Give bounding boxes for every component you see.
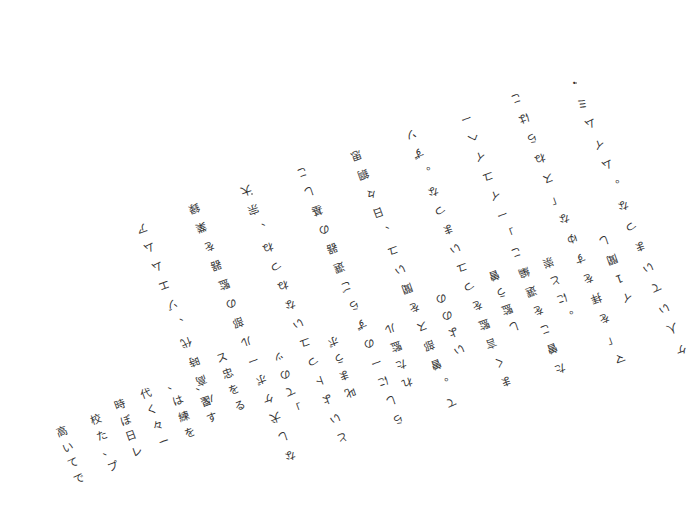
text-glyph: ユ bbox=[480, 168, 495, 183]
text-glyph: 、 bbox=[253, 220, 268, 235]
text-glyph: 々 bbox=[363, 185, 378, 200]
text-glyph: 。 bbox=[418, 164, 433, 179]
text-glyph: 、 bbox=[164, 377, 179, 392]
text-glyph: は bbox=[516, 110, 531, 125]
text-glyph: ル bbox=[382, 320, 397, 335]
text-glyph: い bbox=[447, 240, 462, 255]
text-glyph: を bbox=[596, 310, 611, 325]
text-glyph: 選 bbox=[523, 283, 538, 298]
text-glyph: 、 bbox=[171, 315, 186, 330]
text-glyph: 校 bbox=[88, 412, 103, 427]
text-glyph: て bbox=[65, 455, 80, 470]
text-glyph: ゾ bbox=[164, 296, 179, 311]
text-glyph: 日 bbox=[370, 204, 385, 219]
text-glyph: 監 bbox=[388, 338, 403, 353]
text-glyph: 代 bbox=[179, 334, 194, 349]
text-glyph: 高 bbox=[54, 424, 69, 439]
text-glyph: 「 bbox=[604, 330, 619, 345]
text-glyph: ト bbox=[312, 372, 327, 387]
text-glyph: し bbox=[596, 232, 611, 247]
text-glyph: ま bbox=[336, 367, 351, 382]
text-glyph: の bbox=[316, 221, 331, 236]
text-glyph: ユ bbox=[297, 334, 312, 349]
text-glyph: ル bbox=[238, 333, 253, 348]
text-glyph: し bbox=[383, 392, 398, 407]
text-glyph: は bbox=[170, 393, 185, 408]
text-glyph: こ bbox=[509, 245, 524, 260]
text-glyph: 宗 bbox=[246, 201, 261, 216]
text-glyph: ー bbox=[494, 206, 509, 221]
text-glyph: の bbox=[433, 290, 448, 305]
text-glyph: 1 bbox=[611, 270, 626, 285]
text-glyph: 監 bbox=[499, 301, 514, 316]
text-glyph: い bbox=[60, 440, 75, 455]
text-glyph: ら bbox=[346, 297, 361, 312]
text-glyph: 部 bbox=[231, 314, 246, 329]
text-glyph: 業 bbox=[194, 219, 209, 234]
text-glyph: ユ bbox=[454, 259, 469, 274]
text-glyph: ボ bbox=[253, 371, 268, 386]
scan-speck bbox=[575, 82, 577, 84]
scan-speck bbox=[251, 193, 253, 195]
text-glyph: る bbox=[232, 398, 247, 413]
text-glyph: 。 bbox=[436, 375, 451, 390]
text-glyph: 犬 bbox=[268, 409, 283, 424]
text-glyph: 叱 bbox=[342, 384, 357, 399]
text-glyph: よ bbox=[445, 324, 460, 339]
text-glyph: ア bbox=[134, 220, 149, 235]
text-glyph: い bbox=[451, 341, 466, 356]
text-glyph: す bbox=[572, 250, 587, 265]
text-glyph: し bbox=[506, 318, 521, 333]
text-glyph: 「 bbox=[548, 190, 563, 205]
text-glyph: な bbox=[615, 197, 630, 212]
text-glyph: 聞 bbox=[604, 251, 619, 266]
text-glyph: 」 bbox=[501, 225, 516, 240]
text-glyph: 代 bbox=[138, 386, 153, 401]
text-glyph: て bbox=[443, 394, 458, 409]
text-glyph: ソ bbox=[403, 126, 418, 141]
text-glyph: た bbox=[393, 356, 408, 371]
text-glyph: ユ bbox=[385, 242, 400, 257]
text-glyph: こ bbox=[294, 164, 309, 179]
text-glyph: う bbox=[331, 350, 346, 365]
text-glyph: つ bbox=[624, 218, 639, 233]
text-glyph: ぼ bbox=[118, 413, 133, 428]
text-glyph: ボ bbox=[325, 333, 340, 348]
text-glyph: 曽 bbox=[429, 356, 444, 371]
text-glyph: ね bbox=[260, 239, 275, 254]
text-glyph: 、 bbox=[99, 443, 114, 458]
text-glyph: 言 bbox=[484, 335, 499, 350]
text-glyph: と bbox=[547, 272, 562, 287]
text-glyph: と bbox=[334, 429, 349, 444]
text-glyph: 崇 bbox=[540, 254, 555, 269]
text-glyph: を bbox=[469, 297, 484, 312]
text-glyph: ス bbox=[540, 170, 555, 185]
text-glyph: ケ bbox=[260, 390, 275, 405]
text-glyph: て bbox=[648, 279, 663, 294]
text-glyph: ー bbox=[458, 110, 473, 125]
text-glyph: 曽 bbox=[486, 267, 501, 282]
text-glyph: つ bbox=[305, 353, 320, 368]
text-glyph: な bbox=[282, 447, 297, 462]
text-glyph: エ bbox=[156, 277, 171, 292]
text-glyph: に bbox=[376, 373, 391, 388]
text-glyph: を bbox=[407, 299, 422, 314]
text-glyph: 選 bbox=[331, 259, 346, 274]
text-glyph: マ bbox=[612, 350, 627, 365]
text-glyph: つ bbox=[268, 258, 283, 273]
text-glyph: い bbox=[640, 259, 655, 274]
text-glyph: 編 bbox=[516, 264, 531, 279]
text-glyph: 忠 bbox=[220, 366, 235, 381]
text-glyph: 器 bbox=[324, 240, 339, 255]
text-glyph: ら bbox=[524, 130, 539, 145]
text-glyph: を bbox=[182, 425, 197, 440]
text-glyph: ッ bbox=[271, 349, 286, 364]
text-glyph: 日 bbox=[123, 428, 138, 443]
text-glyph: ま bbox=[498, 373, 513, 388]
text-glyph: く bbox=[144, 402, 159, 417]
text-glyph: ー bbox=[156, 434, 171, 449]
text-glyph: 聞 bbox=[399, 280, 414, 295]
text-glyph: ス bbox=[414, 318, 429, 333]
text-glyph: 録 bbox=[186, 200, 201, 215]
